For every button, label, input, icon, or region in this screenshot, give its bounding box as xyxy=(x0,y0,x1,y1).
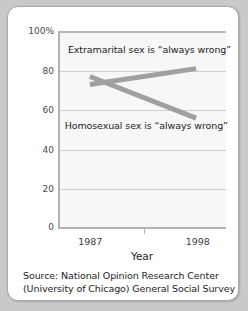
series-line-1 xyxy=(90,77,196,119)
x-axis-tick-mark-center xyxy=(144,229,145,234)
source-caption-line-2: (University of Chicago) General Social S… xyxy=(23,282,228,295)
y-axis-tick-label-60: 60 xyxy=(43,105,54,115)
source-caption-line-1: Source: National Opinion Research Center xyxy=(23,269,228,282)
y-axis-tick-label-0: 0 xyxy=(48,222,54,232)
y-axis-tick-label-100: 100% xyxy=(28,26,54,36)
series-annotation-homosexual: Homosexual sex is “always wrong” xyxy=(65,120,228,131)
y-axis-tick-label-80: 80 xyxy=(43,66,54,76)
y-axis-tick-label-20: 20 xyxy=(43,184,54,194)
x-axis-tick-label-1998: 1998 xyxy=(186,236,210,247)
x-axis-tick-label-1987: 1987 xyxy=(78,236,102,247)
chart-plot-area: 100%806040200 19871998 Extramarital sex … xyxy=(8,7,239,259)
figure-card: 100%806040200 19871998 Extramarital sex … xyxy=(7,6,239,301)
x-axis-title: Year xyxy=(131,250,153,262)
source-caption: Source: National Opinion Research Center… xyxy=(23,269,228,295)
series-annotation-extramarital: Extramarital sex is “always wrong” xyxy=(68,44,231,55)
plot-frame: 100%806040200 19871998 Extramarital sex … xyxy=(58,31,226,229)
y-axis-tick-label-40: 40 xyxy=(43,145,54,155)
